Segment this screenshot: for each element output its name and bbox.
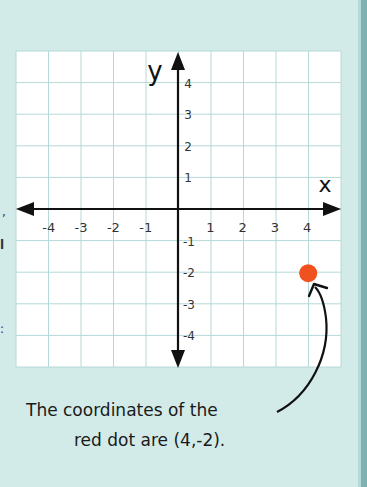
red-dot bbox=[299, 264, 317, 282]
y-tick-label: 3 bbox=[184, 108, 192, 122]
y-tick-label: -3 bbox=[183, 298, 195, 312]
x-axis-label: x bbox=[318, 172, 331, 197]
x-tick-label: -4 bbox=[42, 220, 55, 235]
x-tick-label: 3 bbox=[271, 220, 279, 235]
x-tick-label: 2 bbox=[238, 220, 246, 235]
worksheet-page: , l : -4-3-2-112341234-1-2-3-4yx The coo… bbox=[0, 0, 367, 487]
y-tick-label: 1 bbox=[184, 171, 192, 185]
y-tick-label: -1 bbox=[183, 235, 195, 249]
y-tick-label: -4 bbox=[183, 329, 195, 343]
y-tick-label: 4 bbox=[184, 77, 192, 91]
x-tick-label: -1 bbox=[139, 220, 152, 235]
x-tick-label: 1 bbox=[206, 220, 214, 235]
caption-line-2: red dot are (4,-2). bbox=[74, 425, 225, 455]
y-tick-label: -2 bbox=[183, 266, 195, 280]
x-tick-label: 4 bbox=[303, 220, 311, 235]
y-tick-label: 2 bbox=[184, 140, 192, 154]
x-tick-label: -2 bbox=[107, 220, 120, 235]
caption-line-1: The coordinates of the bbox=[26, 395, 218, 425]
y-axis-label: y bbox=[147, 56, 162, 86]
x-tick-label: -3 bbox=[75, 220, 88, 235]
